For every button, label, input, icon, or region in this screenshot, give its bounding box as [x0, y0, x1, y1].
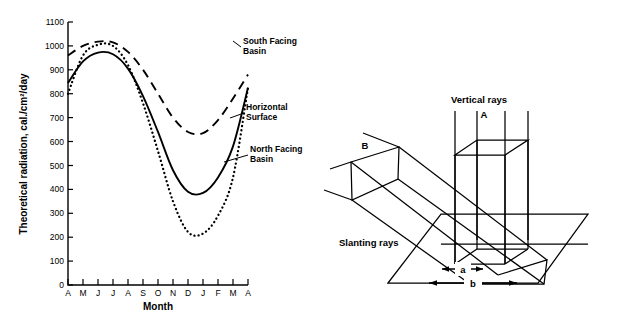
x-tick-label: A [125, 288, 131, 298]
figure-root: 0 100 200 300 400 500 600 700 800 900 10… [0, 0, 618, 319]
label-beam-a: A [481, 109, 488, 120]
column-top-face [455, 140, 528, 155]
x-axis-title: Month [143, 301, 173, 312]
x-tick-label: D [185, 288, 191, 298]
series-horizontal-surface [68, 52, 248, 195]
column-sides [455, 140, 528, 264]
y-tick-label: 0 [59, 280, 64, 290]
label-slanting-rays: Slanting rays [339, 237, 399, 248]
x-axis-ticks [68, 279, 248, 285]
dimension-b: b [429, 276, 517, 290]
figure-svg: 0 100 200 300 400 500 600 700 800 900 10… [0, 0, 618, 319]
x-tick-label: J [201, 288, 205, 298]
x-tick-label: F [215, 288, 220, 298]
dimension-a-label: a [460, 264, 466, 275]
y-tick-label: 900 [50, 65, 64, 75]
y-axis-title: Theoretical radiation, cal./cm²/day [18, 73, 29, 235]
y-tick-label: 400 [50, 184, 64, 194]
annotation-south-facing-basin-line2: Basin [243, 46, 266, 56]
y-tick-label: 500 [50, 161, 64, 171]
x-tick-label: A [65, 288, 71, 298]
y-axis-ticks [68, 22, 73, 285]
y-tick-label: 1100 [46, 17, 65, 27]
label-vertical-rays: Vertical rays [451, 94, 507, 105]
y-tick-label: 800 [50, 89, 64, 99]
annotation-north-facing-basin-line2: Basin [250, 154, 273, 164]
x-axis-tick-labels: A M J J A S O N D J F M A [65, 288, 251, 298]
x-tick-label: M [79, 288, 86, 298]
chart-annotations: South Facing Basin Horizontal Surface No… [224, 36, 302, 164]
y-tick-label: 600 [50, 137, 64, 147]
y-tick-label: 1000 [45, 41, 64, 51]
x-tick-label: S [140, 288, 146, 298]
series-north-facing-basin [68, 43, 248, 235]
dimension-b-label: b [470, 278, 476, 289]
x-tick-label: J [96, 288, 100, 298]
y-tick-label: 200 [50, 232, 64, 242]
slanting-beam [351, 147, 547, 284]
ray-geometry-diagram: Vertical rays A B Slanting rays a b [324, 94, 588, 290]
annotation-horizontal-surface-line1: Horizontal [246, 102, 288, 112]
x-tick-label: M [229, 288, 236, 298]
y-axis-tick-labels: 0 100 200 300 400 500 600 700 800 900 10… [45, 17, 64, 290]
x-tick-label: A [245, 288, 251, 298]
y-tick-label: 100 [50, 256, 64, 266]
x-tick-label: N [170, 288, 176, 298]
annotation-north-facing-basin-line1: North Facing [250, 144, 302, 154]
series-south-facing-basin [68, 41, 248, 134]
vertical-rays-lines [455, 111, 528, 264]
x-tick-label: O [155, 288, 162, 298]
y-tick-label: 700 [50, 113, 64, 123]
annotation-south-facing-basin-line1: South Facing [243, 36, 297, 46]
x-tick-label: J [111, 288, 115, 298]
radiation-chart: 0 100 200 300 400 500 600 700 800 900 10… [18, 17, 302, 312]
label-beam-b: B [362, 140, 369, 151]
annotation-horizontal-surface-line2: Surface [246, 112, 277, 122]
y-tick-label: 300 [50, 208, 64, 218]
